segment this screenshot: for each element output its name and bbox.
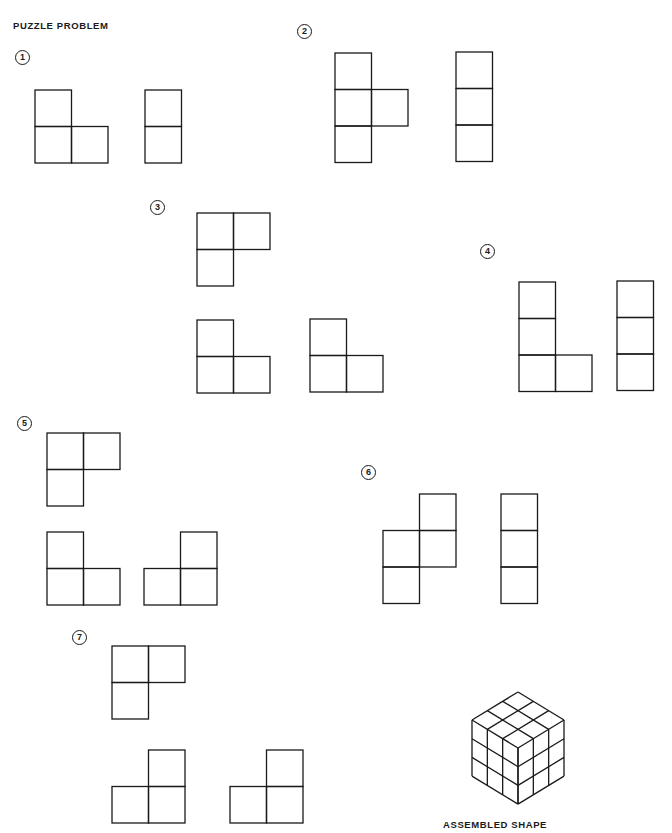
piece-i-tromino bbox=[456, 52, 493, 162]
piece-cell bbox=[112, 683, 149, 720]
piece-cell bbox=[145, 127, 182, 164]
cube-right-grid-line bbox=[518, 739, 564, 767]
piece-cell bbox=[617, 318, 654, 355]
piece-cell bbox=[230, 787, 267, 824]
piece-cell bbox=[197, 250, 234, 287]
piece-cell bbox=[501, 531, 538, 568]
puzzle-diagram bbox=[0, 0, 672, 833]
cube-left-grid-line bbox=[472, 757, 518, 785]
piece-cell bbox=[47, 532, 84, 569]
piece-cell bbox=[267, 787, 304, 824]
puzzle-5 bbox=[47, 433, 217, 605]
piece-l-tromino bbox=[47, 532, 120, 605]
piece-cell bbox=[456, 52, 493, 89]
piece-cell bbox=[335, 90, 372, 127]
piece-cell bbox=[383, 531, 420, 568]
puzzle-6 bbox=[383, 494, 538, 604]
piece-l-tetromino bbox=[519, 282, 592, 392]
piece-l-tromino bbox=[310, 319, 383, 392]
piece-t-tetromino bbox=[335, 53, 408, 163]
assembled-shape-caption: ASSEMBLED SHAPE bbox=[443, 819, 547, 830]
piece-cell bbox=[181, 569, 218, 606]
piece-cell bbox=[112, 646, 149, 683]
piece-l-tromino bbox=[112, 750, 185, 823]
piece-cell bbox=[310, 319, 347, 356]
puzzle-2 bbox=[335, 52, 493, 163]
piece-cell bbox=[35, 90, 72, 127]
piece-cell bbox=[519, 319, 556, 356]
piece-domino bbox=[145, 90, 182, 163]
piece-cell bbox=[145, 90, 182, 127]
piece-cell bbox=[383, 567, 420, 604]
puzzle-7 bbox=[112, 646, 303, 823]
puzzle-1 bbox=[35, 90, 182, 163]
assembled-cube-drawing bbox=[472, 692, 564, 804]
piece-i-tromino bbox=[617, 281, 654, 391]
piece-cell bbox=[47, 433, 84, 470]
piece-cell bbox=[347, 356, 384, 393]
piece-l-tromino bbox=[230, 750, 303, 823]
cube-left-grid-line bbox=[472, 776, 518, 804]
piece-l-tromino bbox=[112, 646, 185, 719]
piece-l-tromino bbox=[144, 532, 217, 605]
cube-left-grid-line bbox=[472, 739, 518, 767]
piece-cell bbox=[181, 532, 218, 569]
piece-cell bbox=[197, 213, 234, 250]
piece-cell bbox=[47, 569, 84, 606]
piece-cell bbox=[310, 356, 347, 393]
piece-cell bbox=[234, 213, 271, 250]
piece-l-tromino bbox=[197, 320, 270, 393]
piece-cell bbox=[420, 531, 457, 568]
puzzle-3 bbox=[197, 213, 383, 393]
piece-s-tetromino bbox=[383, 494, 456, 604]
piece-l-tromino bbox=[35, 90, 108, 163]
piece-cell bbox=[149, 646, 186, 683]
piece-cell bbox=[267, 750, 304, 787]
piece-cell bbox=[372, 90, 409, 127]
piece-cell bbox=[617, 354, 654, 391]
piece-cell bbox=[234, 357, 271, 394]
piece-cell bbox=[47, 470, 84, 507]
piece-cell bbox=[519, 282, 556, 319]
piece-cell bbox=[501, 567, 538, 604]
piece-cell bbox=[84, 569, 121, 606]
puzzle-pieces bbox=[35, 52, 654, 823]
piece-cell bbox=[501, 494, 538, 531]
piece-cell bbox=[72, 127, 109, 164]
piece-cell bbox=[149, 750, 186, 787]
piece-cell bbox=[617, 281, 654, 318]
piece-cell bbox=[456, 89, 493, 126]
piece-cell bbox=[112, 787, 149, 824]
piece-i-tromino bbox=[501, 494, 538, 604]
cube-right-grid-line bbox=[518, 757, 564, 785]
piece-cell bbox=[149, 787, 186, 824]
piece-cell bbox=[456, 125, 493, 162]
piece-cell bbox=[84, 433, 121, 470]
cube-right-grid-line bbox=[518, 776, 564, 804]
piece-cell bbox=[556, 355, 593, 392]
piece-cell bbox=[335, 53, 372, 90]
piece-cell bbox=[420, 494, 457, 531]
piece-cell bbox=[144, 569, 181, 606]
piece-l-tromino bbox=[47, 433, 120, 506]
piece-cell bbox=[519, 355, 556, 392]
piece-cell bbox=[335, 126, 372, 163]
puzzle-4 bbox=[519, 281, 654, 392]
piece-cell bbox=[197, 357, 234, 394]
piece-l-tromino bbox=[197, 213, 270, 286]
piece-cell bbox=[197, 320, 234, 357]
piece-cell bbox=[35, 127, 72, 164]
